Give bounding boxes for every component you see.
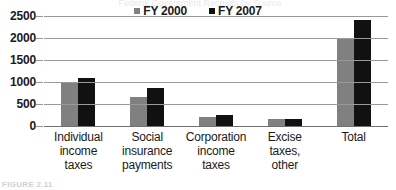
gridline-2500: [44, 16, 388, 17]
gridline-500: [44, 104, 388, 105]
y-axis-tick-label: 500: [17, 97, 36, 111]
y-axis-tick-label: 2000: [10, 31, 36, 45]
bar-group: [182, 16, 251, 126]
bar: [216, 115, 233, 126]
bar-group: [44, 16, 113, 126]
bar-group: [113, 16, 182, 126]
x-axis-category-label: Individualincometaxes: [44, 130, 113, 172]
x-axis-category-label: Excisetaxes,other: [250, 130, 319, 172]
bars-layer: [44, 16, 388, 126]
y-axis-tick-label: 2500: [10, 9, 36, 23]
x-axis-labels: IndividualincometaxesSocialinsurancepaym…: [44, 130, 388, 182]
y-axis-tick-label: 1500: [10, 53, 36, 67]
bar-group: [250, 16, 319, 126]
legend-swatch-icon: [209, 8, 215, 14]
plot-area: [44, 16, 388, 126]
gridline-1500: [44, 60, 388, 61]
bar: [130, 97, 147, 126]
y-tick-0: [36, 126, 43, 127]
y-tick-1000: [36, 82, 43, 83]
bar: [199, 117, 216, 126]
y-tick-2500: [36, 16, 43, 17]
bar: [147, 88, 164, 126]
bar: [78, 78, 95, 126]
y-tick-1500: [36, 60, 43, 61]
x-axis-category-label: Socialinsurancepayments: [113, 130, 182, 172]
figure-container: Federal Government Receipts by Source 05…: [0, 0, 396, 190]
y-axis-tick-label: 1000: [10, 75, 36, 89]
bar: [285, 119, 302, 126]
gridline-1000: [44, 82, 388, 83]
cropped-title-remnant: Federal Government Receipts by Source: [60, 0, 340, 6]
y-axis-labels: 05001000150020002500: [0, 16, 36, 126]
x-axis-category-label: Corporationincometaxes: [182, 130, 251, 172]
y-tick-500: [36, 104, 43, 105]
x-axis-category-label: Total: [319, 130, 388, 144]
gridline-0: [44, 126, 388, 127]
cropped-caption-remnant: FIGURE 2.11: [2, 181, 53, 188]
gridline-2000: [44, 38, 388, 39]
bar: [268, 119, 285, 126]
bar-group: [319, 16, 388, 126]
y-tick-2000: [36, 38, 43, 39]
legend-swatch-icon: [134, 8, 140, 14]
bar: [354, 20, 371, 126]
